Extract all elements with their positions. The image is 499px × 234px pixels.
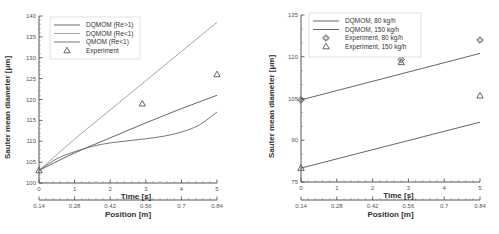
legend-label: Experiment <box>86 47 119 55</box>
position-tick-label: 0.84 <box>211 203 223 209</box>
y-axis-label: Sauter mean diameter [μm] <box>3 56 12 159</box>
position-tick-label: 0.42 <box>104 203 116 209</box>
position-tick-label: 0.28 <box>331 203 343 209</box>
position-tick-label: 0.28 <box>69 203 81 209</box>
y-tick-label: 105 <box>288 96 299 102</box>
right-chart: 7590105120135012345Time [s]0.140.280.420… <box>267 12 486 219</box>
triangle-marker-icon <box>139 100 145 106</box>
y-tick-label: 125 <box>26 76 37 82</box>
chart-canvas: 100105110115120125130135140012345Time [s… <box>0 0 499 234</box>
y-axis-label: Sauter mean diameter [μm] <box>267 55 276 158</box>
x-tick-label: 5 <box>478 185 482 191</box>
y-tick-label: 130 <box>26 55 37 61</box>
position-tick-label: 0.7 <box>440 203 449 209</box>
y-tick-label: 110 <box>26 138 36 144</box>
x-tick-label: 0 <box>299 185 303 191</box>
y-tick-label: 75 <box>291 179 298 185</box>
series-line <box>39 95 217 170</box>
left-chart: 100105110115120125130135140012345Time [s… <box>3 13 223 219</box>
x-tick-label: 2 <box>109 186 113 192</box>
legend: DQMOM (Re>1)DQMOM (Re<1)QMOM (Re<1)Exper… <box>50 17 140 59</box>
position-tick-label: 0.7 <box>177 203 186 209</box>
triangle-marker-icon <box>477 92 483 98</box>
y-tick-label: 105 <box>26 159 37 165</box>
legend-label: Experiment, 80 kg/h <box>345 34 403 42</box>
legend: DQMOM, 80 kg/hDQMOM, 150 kg/hExperiment,… <box>309 13 421 57</box>
x-tick-label: 4 <box>180 186 184 192</box>
x-tick-label: 1 <box>73 186 77 192</box>
position-tick-label: 0.56 <box>140 203 152 209</box>
y-tick-label: 120 <box>288 54 299 60</box>
y-tick-label: 115 <box>26 117 36 123</box>
x-axis-label: Time [s] <box>121 192 152 201</box>
y-tick-label: 135 <box>288 12 299 18</box>
position-tick-label: 0.56 <box>403 203 415 209</box>
y-tick-label: 120 <box>26 97 37 103</box>
x-tick-label: 0 <box>37 186 41 192</box>
legend-label: DQMOM, 150 kg/h <box>345 26 400 34</box>
y-tick-label: 135 <box>26 34 37 40</box>
x-tick-label: 5 <box>215 186 219 192</box>
legend-label: QMOM (Re<1) <box>86 38 129 46</box>
x-axis-label: Time [s] <box>383 191 414 200</box>
position-axis-label: Position [m] <box>367 210 414 219</box>
triangle-marker-icon <box>398 59 404 65</box>
x-tick-label: 2 <box>371 185 375 191</box>
y-tick-label: 90 <box>291 137 298 143</box>
position-axis-label: Position [m] <box>105 210 152 219</box>
series-line <box>301 122 480 168</box>
legend-label: DQMOM, 80 kg/h <box>345 17 396 25</box>
position-tick-label: 0.14 <box>295 203 307 209</box>
y-tick-label: 140 <box>26 13 37 19</box>
legend-label: Experiment, 150 kg/h <box>345 43 407 51</box>
position-tick-label: 0.42 <box>367 203 379 209</box>
x-tick-label: 1 <box>335 185 339 191</box>
series-line <box>301 53 480 99</box>
position-tick-label: 0.84 <box>474 203 486 209</box>
diamond-marker-icon <box>477 37 484 44</box>
legend-label: DQMOM (Re<1) <box>86 30 134 38</box>
x-tick-label: 4 <box>443 185 447 191</box>
legend-label: DQMOM (Re>1) <box>86 21 134 29</box>
y-tick-label: 100 <box>26 180 37 186</box>
triangle-marker-icon <box>214 71 220 77</box>
position-tick-label: 0.14 <box>33 203 45 209</box>
series-line <box>39 112 217 170</box>
